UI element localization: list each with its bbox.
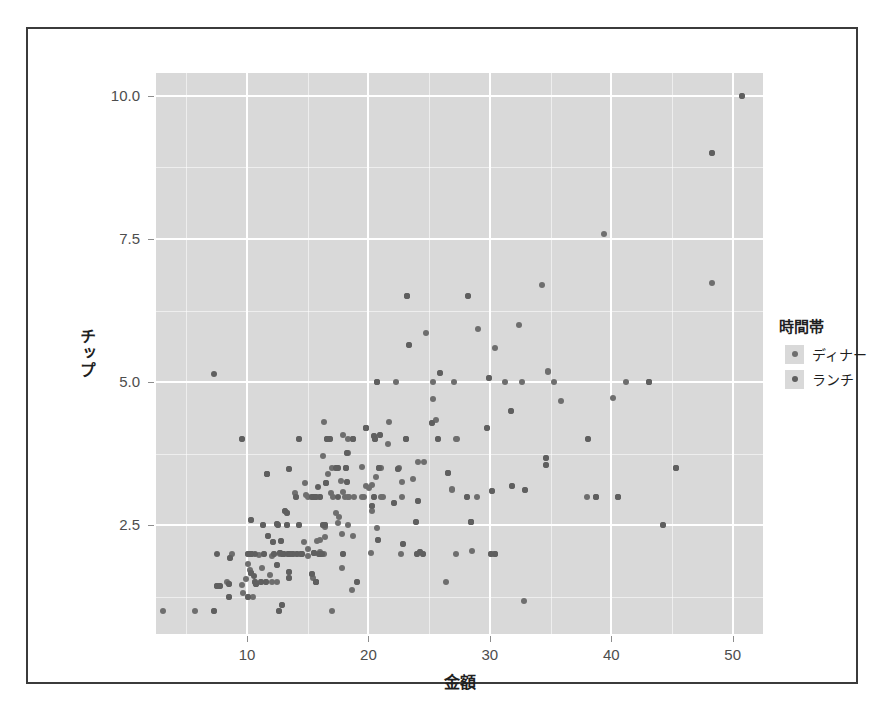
y-tick-mark [148, 525, 154, 526]
data-point [492, 345, 498, 351]
data-point [343, 465, 349, 471]
data-point [339, 565, 345, 571]
data-point [315, 484, 321, 490]
y-tick-mark [148, 382, 154, 383]
gridline-major-horizontal [156, 238, 763, 240]
data-point [378, 494, 384, 500]
data-point [250, 594, 256, 600]
gridline-major-vertical [489, 73, 491, 634]
data-point [421, 459, 427, 465]
legend-key-dot-icon [792, 351, 798, 357]
y-tick-mark [148, 239, 154, 240]
data-point [465, 293, 471, 299]
data-point [385, 441, 391, 447]
data-point [371, 494, 377, 500]
data-point [414, 551, 420, 557]
data-point [615, 494, 621, 500]
x-tick-mark [490, 636, 491, 642]
data-point [584, 494, 590, 500]
data-point [400, 541, 406, 547]
data-point [519, 379, 525, 385]
data-point [313, 579, 319, 585]
data-point [333, 510, 339, 516]
data-point [214, 551, 220, 557]
gridline-major-horizontal [156, 381, 763, 383]
data-point [509, 483, 515, 489]
data-point [391, 500, 397, 506]
data-point [251, 573, 257, 579]
data-point [610, 395, 616, 401]
legend-title: 時間帯 [779, 315, 878, 336]
data-point [423, 330, 429, 336]
data-point [245, 594, 251, 600]
data-point [245, 561, 251, 567]
data-point [284, 522, 290, 528]
data-point [543, 462, 549, 468]
x-tick-mark [733, 636, 734, 642]
data-point [521, 598, 527, 604]
data-point [399, 479, 405, 485]
data-point [274, 579, 280, 585]
data-point [489, 488, 495, 494]
data-point [239, 436, 245, 442]
data-point [508, 408, 514, 414]
x-tick-label: 20 [338, 646, 398, 663]
data-point [375, 537, 381, 543]
legend: 時間帯 ディナーランチ [779, 315, 878, 394]
x-tick-mark [611, 636, 612, 642]
data-point [451, 379, 457, 385]
y-axis-title: チップ [76, 73, 96, 634]
data-point [344, 479, 350, 485]
data-point [211, 371, 217, 377]
data-point [267, 572, 273, 578]
data-point [264, 471, 270, 477]
data-point [558, 398, 564, 404]
data-point [217, 583, 223, 589]
data-point [293, 494, 299, 500]
data-point [296, 436, 302, 442]
legend-item-2[interactable]: ランチ [779, 369, 878, 389]
data-point [276, 608, 282, 614]
data-point [443, 579, 449, 585]
data-point [323, 480, 329, 486]
gridline-major-horizontal [156, 95, 763, 97]
data-point [502, 379, 508, 385]
data-point [398, 551, 404, 557]
data-point [551, 379, 557, 385]
data-point [430, 396, 436, 402]
data-point [335, 494, 341, 500]
legend-key-swatch [785, 370, 804, 389]
data-point [349, 587, 355, 593]
data-point [226, 581, 232, 587]
data-point [449, 486, 455, 492]
x-axis-title: 金額 [156, 669, 763, 693]
data-point [475, 326, 481, 332]
data-point [404, 293, 410, 299]
data-point [305, 546, 311, 552]
data-point [543, 455, 549, 461]
plot-panel [156, 73, 763, 634]
data-point [454, 436, 460, 442]
data-point [278, 538, 284, 544]
data-point [263, 579, 269, 585]
data-point [351, 494, 357, 500]
data-point [415, 459, 421, 465]
data-point [335, 520, 341, 526]
data-point [284, 510, 290, 516]
data-point [399, 494, 405, 500]
data-point [286, 466, 292, 472]
x-tick-label: 50 [703, 646, 763, 663]
legend-items: ディナーランチ [779, 344, 878, 389]
data-point [739, 93, 745, 99]
data-point [354, 579, 360, 585]
data-point [601, 231, 607, 237]
data-point [321, 419, 327, 425]
data-point [709, 150, 715, 156]
data-point [488, 551, 494, 557]
data-point [516, 322, 522, 328]
data-point [301, 539, 307, 545]
data-point [350, 533, 356, 539]
data-point [239, 582, 245, 588]
legend-key-dot-icon [792, 376, 798, 382]
legend-item-1[interactable]: ディナー [779, 344, 878, 364]
